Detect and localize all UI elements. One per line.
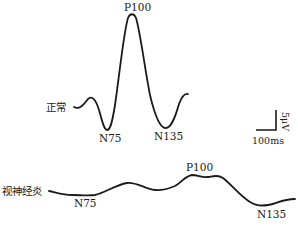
normal-trace-label: 正常 <box>46 101 66 113</box>
normal-n75-label: N75 <box>99 132 122 144</box>
normal-waveform <box>74 14 188 130</box>
optic-neuritis-trace-group: 视神经炎 N75 P100 N135 <box>2 161 295 220</box>
time-scale-label: 100ms <box>252 135 284 146</box>
scale-bar-lines <box>256 110 276 130</box>
optic-neuritis-p100-label: P100 <box>186 161 213 173</box>
amplitude-scale-label: 5μV <box>280 112 291 131</box>
vep-waveform-figure: 正常 N75 P100 N135 5μV 100ms 视神经炎 N75 P100… <box>0 0 298 231</box>
normal-trace-group: 正常 N75 P100 N135 <box>46 1 188 144</box>
optic-neuritis-trace-label: 视神经炎 <box>2 185 43 197</box>
optic-neuritis-n135-label: N135 <box>257 208 286 220</box>
scale-bar: 5μV 100ms <box>252 110 291 146</box>
normal-n135-label: N135 <box>154 130 183 142</box>
normal-p100-label: P100 <box>124 1 151 13</box>
optic-neuritis-n75-label: N75 <box>74 197 97 209</box>
